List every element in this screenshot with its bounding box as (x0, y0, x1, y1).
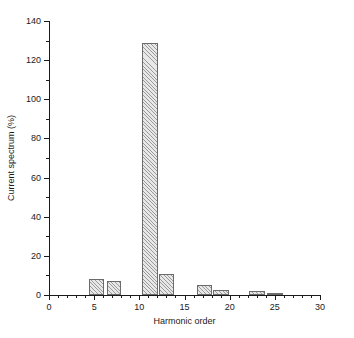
x-minor-tick (175, 295, 176, 298)
y-tick-label-140: 140 (26, 16, 41, 26)
x-tick-label-25: 25 (270, 302, 280, 312)
x-tick-label-15: 15 (179, 302, 189, 312)
plot-area: 020406080100120140051015202530 (49, 21, 320, 295)
y-tick-60 (44, 178, 49, 179)
y-tick-label-100: 100 (26, 94, 41, 104)
y-tick-20 (44, 256, 49, 257)
y-minor-tick (46, 80, 49, 81)
y-tick-label-60: 60 (31, 173, 41, 183)
y-tick-label-20: 20 (31, 251, 41, 261)
x-minor-tick (257, 295, 258, 298)
y-tick-label-120: 120 (26, 55, 41, 65)
bar-harmonic-7 (107, 281, 121, 295)
x-minor-tick (67, 295, 68, 298)
x-axis-title: Harmonic order (49, 316, 320, 326)
bar-harmonic-11 (142, 43, 157, 295)
x-tick-15 (185, 295, 186, 300)
x-minor-tick (166, 295, 167, 298)
x-tick-5 (94, 295, 95, 300)
x-tick-label-0: 0 (46, 302, 51, 312)
x-minor-tick (112, 295, 113, 298)
x-minor-tick (121, 295, 122, 298)
y-tick-120 (44, 60, 49, 61)
x-minor-tick (58, 295, 59, 298)
x-minor-tick (203, 295, 204, 298)
y-tick-40 (44, 217, 49, 218)
y-tick-label-80: 80 (31, 133, 41, 143)
y-minor-tick (46, 275, 49, 276)
x-minor-tick (157, 295, 158, 298)
y-minor-tick (46, 119, 49, 120)
y-minor-tick (46, 197, 49, 198)
x-minor-tick (85, 295, 86, 298)
y-tick-100 (44, 99, 49, 100)
x-tick-label-20: 20 (225, 302, 235, 312)
x-tick-label-5: 5 (92, 302, 97, 312)
x-minor-tick (239, 295, 240, 298)
x-minor-tick (302, 295, 303, 298)
x-minor-tick (76, 295, 77, 298)
x-tick-10 (139, 295, 140, 300)
x-minor-tick (266, 295, 267, 298)
x-tick-20 (230, 295, 231, 300)
bar-harmonic-13 (159, 274, 174, 295)
figure-bar-chart-current-spectrum: 020406080100120140051015202530 Harmonic … (0, 0, 354, 338)
x-tick-0 (49, 295, 50, 300)
y-minor-tick (46, 158, 49, 159)
x-minor-tick (103, 295, 104, 298)
y-minor-tick (46, 41, 49, 42)
y-tick-label-0: 0 (36, 290, 41, 300)
x-minor-tick (248, 295, 249, 298)
x-minor-tick (194, 295, 195, 298)
x-minor-tick (212, 295, 213, 298)
x-minor-tick (130, 295, 131, 298)
bar-harmonic-5 (89, 279, 103, 295)
y-axis-title: Current spectrum (%) (6, 21, 18, 295)
x-minor-tick (293, 295, 294, 298)
x-tick-30 (320, 295, 321, 300)
x-tick-label-10: 10 (134, 302, 144, 312)
x-minor-tick (148, 295, 149, 298)
y-axis-line (49, 21, 50, 295)
y-tick-label-40: 40 (31, 212, 41, 222)
y-tick-80 (44, 138, 49, 139)
x-tick-25 (275, 295, 276, 300)
x-tick-label-30: 30 (315, 302, 325, 312)
y-tick-140 (44, 21, 49, 22)
y-minor-tick (46, 236, 49, 237)
bar-harmonic-17 (197, 285, 212, 295)
x-minor-tick (221, 295, 222, 298)
x-minor-tick (311, 295, 312, 298)
x-minor-tick (284, 295, 285, 298)
